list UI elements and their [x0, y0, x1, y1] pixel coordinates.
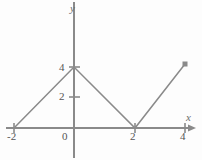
y-tick-label-2: 2 [59, 91, 65, 102]
x-tick-label-minus2: -2 [7, 131, 16, 142]
y-tick-label-4: 4 [59, 62, 65, 73]
x-tick-label-2: 2 [130, 131, 136, 142]
origin-label: 0 [62, 131, 68, 142]
y-axis-label: y [70, 3, 75, 14]
x-axis [6, 125, 196, 132]
x-axis-arrowhead [188, 125, 196, 132]
coordinate-plot [0, 0, 202, 160]
x-axis-label: x [186, 112, 191, 123]
endpoint-marker-square [183, 62, 188, 67]
graph-figure: y x -2 0 2 4 2 4 [0, 0, 202, 160]
piecewise-linear-curve [14, 64, 185, 128]
x-tick-label-4: 4 [180, 131, 186, 142]
